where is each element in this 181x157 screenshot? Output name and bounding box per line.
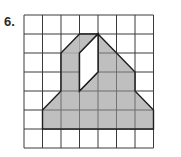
grid-figure [0,0,181,157]
